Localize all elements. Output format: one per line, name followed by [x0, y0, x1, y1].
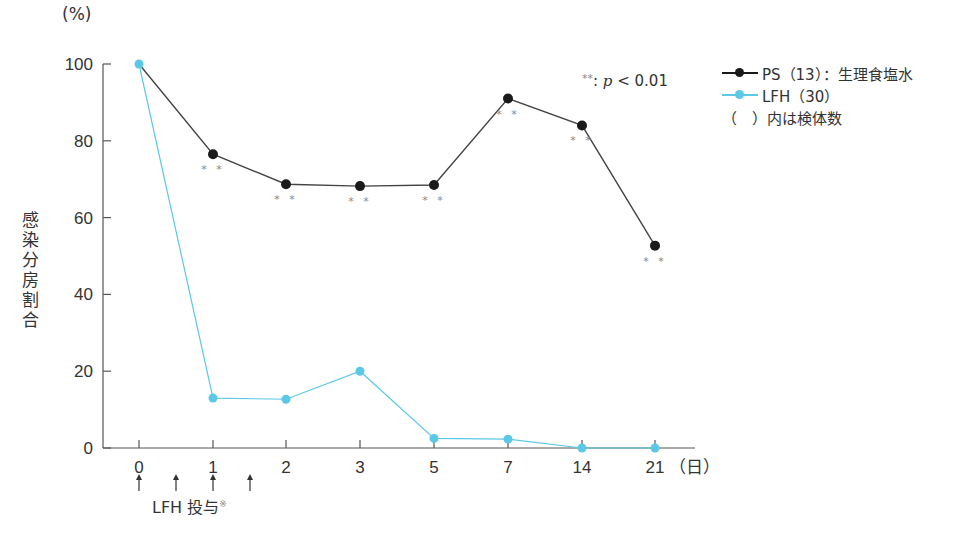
- x-tick-label: 14: [573, 458, 592, 477]
- y-tick-label: 80: [74, 132, 93, 151]
- data-point-lfh: [209, 394, 218, 403]
- data-point-lfh: [504, 435, 513, 444]
- data-point-lfh: [135, 60, 144, 69]
- administration-label: LFH 投与※: [152, 494, 227, 518]
- data-point-lfh: [282, 395, 291, 404]
- legend-marker-ps-icon: [722, 67, 758, 79]
- data-point-lfh: [356, 367, 365, 376]
- admin-arrowhead-icon: [247, 474, 253, 480]
- legend-item-lfh: LFH（30）: [722, 84, 913, 106]
- y-unit-label: (%): [62, 4, 91, 24]
- significance-marker: * *: [422, 194, 446, 207]
- significance-marker: * *: [643, 255, 667, 268]
- significance-marker: * *: [201, 163, 225, 176]
- significance-marker: * *: [496, 108, 520, 121]
- significance-marker: * *: [348, 195, 372, 208]
- significance-marker: * *: [274, 193, 298, 206]
- data-point-ps: [429, 180, 439, 190]
- data-point-ps: [355, 181, 365, 191]
- x-tick-label: 7: [503, 458, 512, 477]
- y-tick-label: 20: [74, 362, 93, 381]
- y-tick-label: 0: [84, 439, 93, 458]
- x-tick-label: 3: [355, 458, 364, 477]
- legend-marker-lfh-icon: [722, 89, 758, 101]
- legend-note: （ ）内は検体数: [722, 106, 913, 128]
- significance-note: **: p < 0.01: [582, 72, 668, 90]
- legend: PS（13）：生理食塩水 LFH（30） （ ）内は検体数: [722, 62, 913, 128]
- y-tick-label: 100: [65, 55, 93, 74]
- significance-stars: **: [582, 72, 593, 85]
- data-point-ps: [208, 149, 218, 159]
- series-line-lfh: [139, 64, 655, 448]
- data-point-ps: [503, 94, 513, 104]
- x-unit-label: （日）: [669, 457, 720, 477]
- x-tick-label: 2: [281, 458, 290, 477]
- significance-marker: * *: [570, 134, 594, 147]
- data-point-lfh: [578, 444, 587, 453]
- legend-item-ps: PS（13）：生理食塩水: [722, 62, 913, 84]
- admin-arrowhead-icon: [173, 474, 179, 480]
- data-point-ps: [650, 241, 660, 251]
- x-tick-label: 21: [646, 458, 665, 477]
- data-point-lfh: [651, 444, 660, 453]
- data-point-ps: [281, 179, 291, 189]
- x-tick-label: 5: [429, 458, 438, 477]
- y-tick-label: 40: [74, 285, 93, 304]
- y-axis-title: 感染分房割合: [22, 210, 46, 330]
- data-point-ps: [577, 120, 587, 130]
- y-tick-label: 60: [74, 209, 93, 228]
- data-point-lfh: [430, 434, 439, 443]
